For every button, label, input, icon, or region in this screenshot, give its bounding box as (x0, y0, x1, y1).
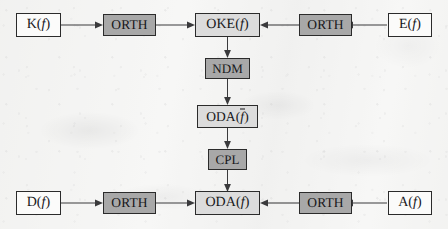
node-e-input[interactable]: E(f) (388, 13, 432, 37)
edge-orth-top-right-to-oke (260, 22, 299, 29)
node-ndm[interactable]: NDM (205, 58, 250, 79)
node-oda-bar-label: ODA(f) (206, 109, 249, 123)
node-d-input-label: D(f) (27, 196, 51, 210)
node-orth-top-left[interactable]: ORTH (103, 14, 156, 36)
node-k-input-label: K(f) (27, 18, 51, 32)
node-oke[interactable]: OKE(f) (195, 13, 260, 37)
node-orth-bottom-right-label: ORTH (307, 196, 343, 210)
node-d-input[interactable]: D(f) (16, 191, 61, 215)
edge-k-to-orth-top-left (61, 22, 103, 29)
edge-ndm-to-oda-bar (224, 79, 231, 105)
node-oda-bar[interactable]: ODA(f) (197, 105, 258, 128)
node-k-input[interactable]: K(f) (16, 13, 61, 37)
node-orth-top-left-label: ORTH (111, 18, 147, 32)
node-a-input-label: A(f) (398, 196, 422, 210)
node-cpl-label: CPL (215, 153, 239, 166)
edge-orth-bottom-left-to-oda (156, 200, 195, 207)
node-orth-top-right[interactable]: ORTH (299, 14, 352, 36)
edge-orth-top-left-to-oke (156, 22, 195, 29)
edge-oke-to-ndm (224, 37, 231, 58)
node-oda-label: ODA(f) (205, 196, 249, 210)
edge-orth-bottom-right-to-oda (260, 200, 299, 207)
node-orth-bottom-left[interactable]: ORTH (103, 192, 156, 214)
node-orth-bottom-left-label: ORTH (111, 196, 147, 210)
block-diagram-figure: K(f) ORTH OKE(f) ORTH E(f) NDM ODA(f) CP… (0, 0, 448, 229)
node-a-input[interactable]: A(f) (388, 191, 432, 215)
node-orth-top-right-label: ORTH (307, 18, 343, 32)
node-cpl[interactable]: CPL (208, 149, 247, 170)
node-ndm-label: NDM (212, 62, 243, 75)
node-e-input-label: E(f) (399, 18, 421, 32)
node-oke-label: OKE(f) (206, 18, 249, 32)
edge-d-to-orth-bottom-left (61, 200, 103, 207)
node-oda[interactable]: ODA(f) (195, 191, 260, 215)
edge-oda-bar-to-cpl (224, 128, 231, 149)
edge-cpl-to-oda (224, 170, 231, 192)
node-orth-bottom-right[interactable]: ORTH (299, 192, 352, 214)
